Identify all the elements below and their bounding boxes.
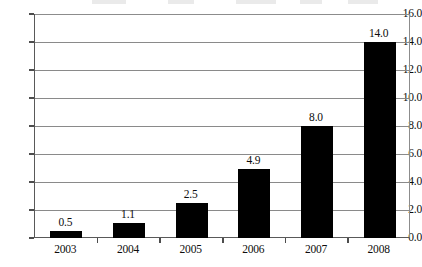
bar-value-label: 2.5 — [171, 189, 211, 201]
scan-artifact — [348, 0, 378, 4]
x-axis-label: 2004 — [106, 244, 150, 256]
bar — [364, 42, 396, 238]
x-axis-tick — [285, 238, 287, 243]
bar-value-label: 14.0 — [359, 28, 399, 40]
gridline — [35, 98, 409, 99]
x-axis-tick — [97, 238, 99, 243]
bar — [176, 203, 208, 238]
bar-chart: 0.02.04.06.08.010.012.014.016.0 20032004… — [0, 0, 422, 267]
gridline — [35, 182, 409, 183]
gridline — [35, 14, 409, 15]
bar — [301, 126, 333, 238]
gridline — [35, 42, 409, 43]
plot-area — [34, 14, 410, 238]
gridline — [35, 126, 409, 127]
bar-value-label: 0.5 — [45, 217, 85, 229]
gridline — [35, 210, 409, 211]
x-axis-label: 2007 — [294, 244, 338, 256]
gridline — [35, 70, 409, 71]
x-axis-label: 2005 — [169, 244, 213, 256]
bar — [113, 223, 145, 238]
bar-value-label: 1.1 — [108, 209, 148, 221]
scan-artifact — [92, 0, 126, 4]
bar — [238, 169, 270, 238]
bar — [50, 231, 82, 238]
x-axis-label: 2006 — [231, 244, 275, 256]
x-axis-tick — [222, 238, 224, 243]
x-axis-label: 2008 — [357, 244, 401, 256]
x-axis-tick — [347, 238, 349, 243]
bar-value-label: 4.9 — [233, 155, 273, 167]
scan-artifact — [236, 0, 276, 4]
x-axis-label: 2003 — [43, 244, 87, 256]
gridline — [35, 154, 409, 155]
x-axis-tick — [159, 238, 161, 243]
bar-value-label: 8.0 — [296, 112, 336, 124]
scan-artifact — [300, 0, 322, 4]
scan-artifact — [168, 0, 194, 4]
